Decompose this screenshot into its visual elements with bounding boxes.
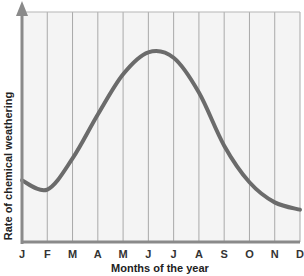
y-axis-arrow-icon bbox=[16, 1, 28, 16]
plot-area bbox=[22, 12, 300, 242]
x-tick-label: A bbox=[94, 248, 102, 260]
x-tick-label: J bbox=[19, 248, 25, 260]
x-tick-label: M bbox=[119, 248, 128, 260]
x-tick-label: A bbox=[195, 248, 203, 260]
x-tick-label: D bbox=[296, 248, 304, 260]
x-tick-label: S bbox=[221, 248, 228, 260]
x-tick-label: M bbox=[68, 248, 77, 260]
x-tick-label: J bbox=[171, 248, 177, 260]
x-tick-label: F bbox=[44, 248, 51, 260]
chart: JFMAMJJASOND Months of the year Rate of … bbox=[0, 0, 304, 276]
y-axis-label: Rate of chemical weathering bbox=[2, 92, 14, 241]
x-axis-label: Months of the year bbox=[111, 262, 210, 274]
x-tick-label: J bbox=[145, 248, 151, 260]
x-tick-labels: JFMAMJJASOND bbox=[19, 248, 304, 260]
x-tick-label: N bbox=[271, 248, 279, 260]
x-tick-label: O bbox=[245, 248, 254, 260]
